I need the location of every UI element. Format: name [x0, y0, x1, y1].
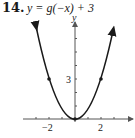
- x-tick-label-2: 2: [98, 122, 103, 133]
- y-axis: y 3: [66, 12, 77, 122]
- y-tick-label-3: 3: [66, 74, 71, 85]
- parabola-plot: −2 2 y 3: [0, 0, 135, 138]
- point-neg2-3: [47, 77, 51, 81]
- x-tick-label-neg2: −2: [42, 122, 53, 133]
- point-origin: [73, 117, 77, 121]
- y-axis-label: y: [71, 12, 77, 23]
- point-2-3: [99, 77, 103, 81]
